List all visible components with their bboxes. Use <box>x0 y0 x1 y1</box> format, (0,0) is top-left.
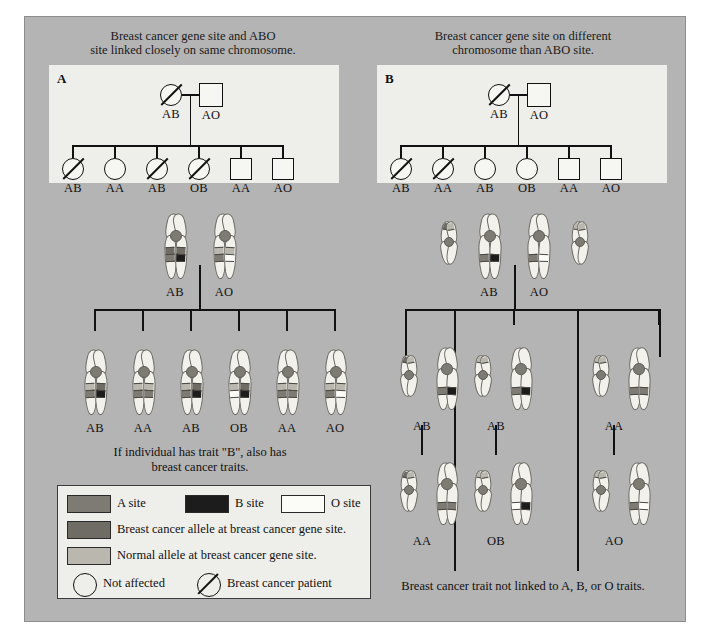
panelB-title: Breast cancer gene site on different chr… <box>373 29 673 57</box>
parent-cancer-chrom-AO <box>566 221 592 267</box>
parent-karyotype-AO <box>208 213 240 278</box>
child-cancer-chrom <box>588 470 613 514</box>
karyotype-drop-line <box>421 425 423 455</box>
karyotype-sibship-bar <box>406 309 660 311</box>
child-symbol[interactable] <box>146 158 168 180</box>
child-drop-line <box>72 145 74 158</box>
abo-band-right <box>538 254 548 263</box>
child-karyotype-label: AO <box>309 421 361 436</box>
abo-band-right <box>446 387 456 395</box>
centromere <box>515 478 527 490</box>
abo-band-left <box>510 502 520 510</box>
child-symbol[interactable] <box>600 158 622 180</box>
child-abo-chrom <box>505 347 535 409</box>
child-karyotype-label: AA <box>117 421 169 436</box>
child-drop-line <box>282 145 284 158</box>
child-symbol[interactable] <box>188 158 210 180</box>
karyotype-drop-line <box>405 309 407 357</box>
legend-swatch-allele <box>67 547 111 565</box>
child-symbol[interactable] <box>390 158 412 180</box>
child-cancer-chrom <box>470 355 495 399</box>
centromere <box>515 363 527 375</box>
cancer-band-right <box>598 472 607 479</box>
child-karyotype-label: AA <box>261 421 313 436</box>
cancer-band-right <box>406 472 415 479</box>
square-symbol <box>272 158 294 180</box>
parent-karyotype-label: AO <box>513 285 565 300</box>
child-abo-chrom <box>505 462 535 524</box>
centromere <box>404 485 414 495</box>
centromere <box>404 370 414 380</box>
child-symbol[interactable] <box>272 158 294 180</box>
circle-symbol <box>516 158 538 180</box>
abo-band-left <box>277 390 287 399</box>
child-symbol[interactable] <box>104 158 126 180</box>
centromere <box>170 230 182 242</box>
centromere <box>633 363 645 375</box>
child-symbol[interactable] <box>230 158 252 180</box>
centromere <box>478 370 488 380</box>
karyotype-drop-line <box>190 309 192 331</box>
legend-label-site: O site <box>331 496 361 511</box>
parent-mother-symbol[interactable] <box>488 84 510 106</box>
legend-label-site: A site <box>117 496 146 511</box>
child-karyotype-OB <box>223 349 255 414</box>
karyotype-group-divider <box>513 309 515 325</box>
parent-abo-chrom-AB <box>473 213 505 278</box>
karyotype-drop-line <box>238 309 240 331</box>
abo-band-left <box>628 502 638 510</box>
child-symbol[interactable] <box>558 158 580 180</box>
legend-label-allele: Breast cancer allele at breast cancer ge… <box>117 522 346 537</box>
centromere <box>596 370 606 380</box>
legend-swatch-site <box>185 495 229 513</box>
abo-band-left <box>436 387 446 395</box>
centromere <box>478 485 488 495</box>
parent-karyotype-AB <box>159 213 191 278</box>
child-cancer-chrom <box>396 355 421 399</box>
abo-band-right <box>335 390 345 399</box>
child-symbol[interactable] <box>432 158 454 180</box>
square-symbol <box>558 158 580 180</box>
panelB-letter: B <box>385 71 394 87</box>
parent-cancer-chrom-AB <box>435 221 461 267</box>
circle-symbol <box>197 573 221 597</box>
centromere <box>90 366 102 378</box>
parent-father-genotype: AO <box>513 108 565 123</box>
circle-symbol <box>73 573 97 597</box>
centromere <box>138 366 150 378</box>
child-drop-line <box>114 145 116 158</box>
panelA-caption: If individual has trait "B", also has br… <box>55 445 345 475</box>
panelA-title-line1: Breast cancer gene site and ABO <box>43 29 343 43</box>
child-symbol[interactable] <box>474 158 496 180</box>
abo-band-left <box>325 390 335 399</box>
centromere <box>330 366 342 378</box>
child-abo-chrom <box>431 462 461 524</box>
abo-band-left <box>229 390 239 399</box>
child-symbol[interactable] <box>62 158 84 180</box>
parent-father-symbol[interactable] <box>199 83 223 107</box>
descent-line <box>190 95 192 145</box>
descent-line <box>518 95 520 145</box>
cancer-band-right <box>598 357 607 364</box>
child-karyotype-label: OB <box>213 421 265 436</box>
abo-band-left <box>436 502 446 510</box>
parent-father-genotype: AO <box>185 108 237 123</box>
panelB-caption: Breast cancer trait not linked to A, B, … <box>363 579 683 594</box>
panelB-title-line2: chromosome than ABO site. <box>373 43 673 57</box>
child-drop-line <box>400 145 402 158</box>
legend-status-symbol <box>197 573 219 595</box>
figure-canvas: Breast cancer gene site and ABO site lin… <box>24 16 686 622</box>
child-cancer-chrom <box>588 355 613 399</box>
parent-mother-symbol[interactable] <box>160 84 182 106</box>
panelA-title: Breast cancer gene site and ABO site lin… <box>43 29 343 57</box>
child-genotype: AO <box>257 181 309 196</box>
child-symbol[interactable] <box>516 158 538 180</box>
abo-band-right <box>638 387 648 395</box>
centromere <box>219 230 231 242</box>
parent-father-symbol[interactable] <box>527 83 551 107</box>
child-abo-chrom <box>623 347 653 409</box>
child-drop-line <box>198 145 200 158</box>
abo-band-right <box>638 502 648 510</box>
abo-band-right <box>224 254 234 263</box>
cancer-band-right <box>480 472 489 479</box>
